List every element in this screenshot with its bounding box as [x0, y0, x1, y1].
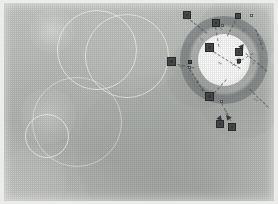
label-05: e5: [179, 65, 183, 69]
marker-05[interactable]: [235, 48, 243, 56]
marker-07[interactable]: [205, 92, 214, 101]
marker-03[interactable]: [212, 19, 220, 27]
marker-06[interactable]: [167, 57, 176, 66]
marker-11[interactable]: [237, 59, 241, 63]
tick-e: [250, 14, 253, 17]
ring-lower-left-wide: [32, 77, 122, 167]
label-03: c3: [241, 28, 246, 33]
tick-d: [220, 100, 223, 103]
marker-09[interactable]: [228, 123, 236, 131]
marker-01[interactable]: [183, 11, 191, 19]
label-12: l12: [258, 40, 263, 45]
tick-a: [221, 24, 224, 27]
marker-02[interactable]: [235, 13, 241, 19]
screenshot-viewport: a1b2c3d4e5f6g7h8i9j10k11l12: [0, 0, 278, 204]
marker-04[interactable]: [205, 43, 214, 52]
marker-08[interactable]: [216, 120, 224, 128]
marker-10[interactable]: [188, 60, 192, 64]
tick-b: [188, 66, 191, 69]
image-canvas: a1b2c3d4e5f6g7h8i9j10k11l12: [4, 3, 274, 201]
